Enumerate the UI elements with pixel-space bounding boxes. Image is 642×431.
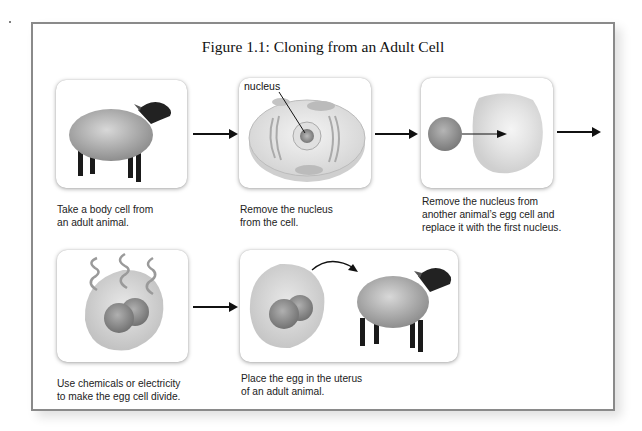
step-2-card: nucleus (239, 78, 371, 188)
caption-line: Take a body cell from (57, 203, 153, 216)
step-5-caption: Place the egg in the uterus of an adult … (241, 372, 362, 398)
caption-line: from the cell. (240, 216, 333, 229)
sheep-icon (56, 80, 187, 188)
step-2-caption: Remove the nucleus from the cell. (240, 203, 333, 229)
step-3-card (421, 78, 553, 188)
caption-line: Place the egg in the uterus (241, 372, 362, 385)
arrow-right-3 (557, 131, 599, 133)
dividing-egg-icon (57, 250, 188, 362)
caption-line: Use chemicals or electricity (57, 377, 180, 390)
caption-line: replace it with the first nucleus. (422, 221, 561, 234)
caption-line: Remove the nucleus (240, 203, 333, 216)
figure-title: Figure 1.1: Cloning from an Adult Cell (33, 38, 613, 56)
caption-line: another animal’s egg cell and (422, 208, 561, 221)
nucleus-transfer-icon (421, 78, 553, 188)
caption-line: Remove the nucleus from (422, 195, 561, 208)
step-5-card (240, 250, 458, 362)
step-4-caption: Use chemicals or electricity to make the… (57, 377, 180, 403)
stray-mark (9, 21, 11, 23)
caption-line: an adult animal. (57, 216, 153, 229)
animal-cell-icon: nucleus (239, 78, 371, 188)
nucleus-label: nucleus (244, 80, 280, 92)
arrow-right-1 (193, 133, 236, 135)
caption-line: of an adult animal. (241, 385, 362, 398)
step-1-caption: Take a body cell from an adult animal. (57, 203, 153, 229)
arrow-right-2 (375, 133, 416, 135)
arrow-right-4 (193, 306, 236, 308)
egg-to-sheep-icon (240, 250, 458, 362)
step-1-card (56, 80, 187, 188)
step-4-card (57, 250, 188, 362)
step-3-caption: Remove the nucleus from another animal’s… (422, 195, 561, 234)
caption-line: to make the egg cell divide. (57, 390, 180, 403)
